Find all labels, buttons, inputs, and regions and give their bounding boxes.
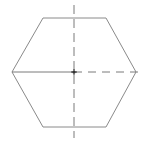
diagram-canvas	[0, 0, 150, 148]
hexagon-diagram	[0, 0, 150, 148]
